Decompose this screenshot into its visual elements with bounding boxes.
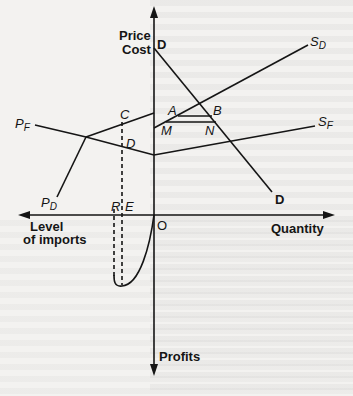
foreign-supply-label: SF	[318, 115, 333, 128]
demand-bottom-label: D	[275, 193, 284, 206]
book-page: Price Cost Profits Quantity Level of imp…	[0, 0, 353, 396]
foreign-price-label: PF	[15, 117, 30, 130]
point-b-label: B	[213, 104, 222, 117]
point-d-label: D	[126, 137, 135, 150]
of-imports-label: of imports	[23, 233, 87, 246]
profits-label: Profits	[159, 350, 200, 363]
demand-curve	[154, 48, 272, 192]
point-e-label: E	[125, 200, 134, 213]
arrow-right-icon	[323, 211, 335, 219]
point-n-label: N	[205, 124, 214, 137]
domestic-supply-curve	[154, 45, 308, 128]
domestic-price-line	[57, 137, 86, 197]
point-a-label: A	[168, 104, 177, 117]
profits-curve	[114, 215, 154, 286]
demand-top-label: D	[157, 38, 166, 51]
arrow-down-icon	[150, 364, 158, 376]
arrow-up-icon	[150, 6, 158, 18]
point-m-label: M	[161, 124, 172, 137]
domestic-supply-label: SD	[310, 35, 326, 48]
price-label: Price	[119, 29, 151, 42]
origin-label: O	[157, 219, 167, 232]
point-c-label: C	[120, 108, 129, 121]
foreign-supply-curve	[154, 126, 315, 155]
arrow-left-icon	[18, 211, 30, 219]
foreign-price-line	[35, 125, 154, 155]
quantity-label: Quantity	[271, 222, 324, 235]
point-r-label: R	[111, 200, 120, 213]
cost-label: Cost	[122, 43, 151, 56]
domestic-price-label: PD	[41, 196, 57, 209]
